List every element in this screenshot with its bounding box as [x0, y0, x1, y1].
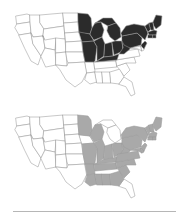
us-map-bottom	[0, 106, 176, 206]
states-layer-top	[15, 13, 162, 96]
state-me	[153, 15, 162, 29]
state-ks	[66, 41, 83, 52]
state-ok	[66, 154, 85, 165]
state-ar	[85, 62, 95, 73]
choropleth-figure	[0, 0, 176, 220]
state-nd	[63, 115, 78, 125]
state-sd	[64, 124, 79, 135]
state-nm	[56, 154, 67, 168]
state-al	[102, 174, 111, 185]
state-mo	[82, 143, 97, 164]
state-co	[56, 140, 66, 155]
state-sd	[64, 22, 79, 33]
state-nm	[56, 52, 67, 66]
state-or	[15, 124, 31, 137]
state-al	[102, 72, 111, 83]
state-ct	[148, 35, 153, 38]
state-ri	[153, 35, 156, 38]
state-tx	[56, 164, 87, 189]
state-tn	[94, 163, 117, 171]
state-in	[104, 144, 113, 159]
state-mi	[107, 23, 121, 41]
states-layer-bottom	[15, 115, 162, 198]
horizontal-rule-divider	[13, 211, 176, 212]
state-mo	[82, 41, 97, 62]
state-ar	[85, 164, 95, 175]
map-panel-bottom	[0, 106, 176, 206]
map-panel-top	[0, 4, 176, 104]
state-mi	[107, 125, 121, 143]
state-tx	[56, 62, 87, 87]
state-nd	[63, 13, 78, 23]
state-co	[56, 38, 66, 53]
state-ok	[66, 52, 85, 63]
state-ct	[148, 137, 153, 140]
us-map-top	[0, 4, 176, 104]
state-mn	[78, 13, 92, 34]
state-tn	[94, 61, 117, 69]
state-me	[153, 117, 162, 131]
state-ri	[153, 137, 156, 140]
state-or	[15, 22, 31, 35]
state-ks	[66, 143, 83, 154]
state-in	[104, 42, 113, 57]
state-mn	[78, 115, 92, 136]
